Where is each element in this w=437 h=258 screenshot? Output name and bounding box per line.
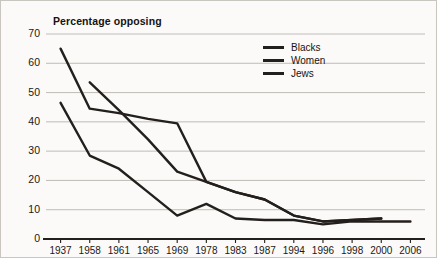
line-chart-plot <box>1 1 437 258</box>
legend-item: Jews <box>263 67 325 80</box>
legend-item-label: Blacks <box>291 42 320 53</box>
legend-item-label: Jews <box>291 68 314 79</box>
y-axis-tick-label: 0 <box>14 232 40 244</box>
legend-line-icon <box>263 72 284 75</box>
legend-line-icon <box>263 46 284 49</box>
y-axis-tick-label: 60 <box>14 56 40 68</box>
x-axis-tick-label: 2006 <box>390 245 430 256</box>
y-axis-tick-label: 70 <box>14 27 40 39</box>
legend-item: Women <box>263 54 325 67</box>
legend-item-label: Women <box>291 55 325 66</box>
chart-figure: Percentage opposing 706050403020100 1937… <box>0 0 437 258</box>
y-axis-tick-label: 20 <box>14 173 40 185</box>
y-axis-tick-label: 40 <box>14 115 40 127</box>
legend-line-icon <box>263 59 284 62</box>
y-axis-tick-label: 10 <box>14 203 40 215</box>
chart-legend: Blacks Women Jews <box>263 41 325 80</box>
y-axis-tick-label: 30 <box>14 144 40 156</box>
y-axis-tick-label: 50 <box>14 86 40 98</box>
legend-item: Blacks <box>263 41 325 54</box>
